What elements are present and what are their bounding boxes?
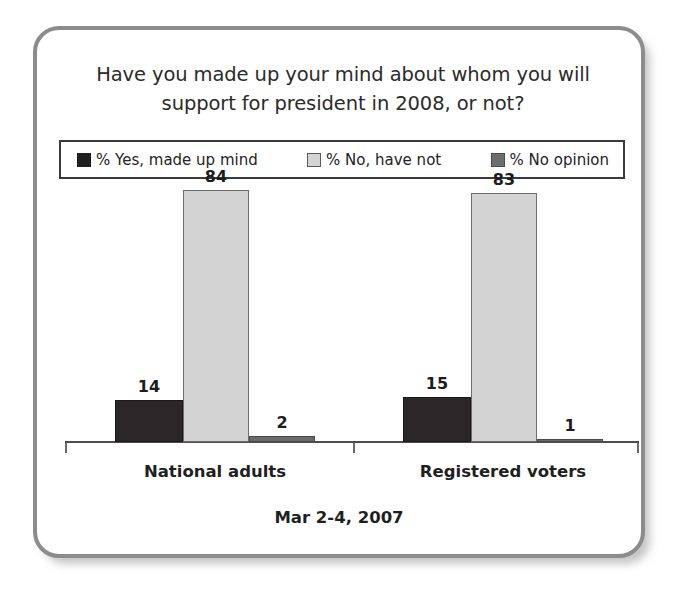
bar-no-registered-voters[interactable] [471, 193, 537, 442]
bar-value-no-opinion-registered-voters: 1 [564, 416, 575, 435]
bar-yes-registered-voters[interactable] [403, 397, 471, 442]
bar-no-opinion-national-adults[interactable] [249, 436, 315, 442]
bar-slot-no-1: 83 [471, 142, 537, 442]
bar-group-registered-voters: 15 83 1 [403, 142, 603, 442]
plot-area: 14 84 2 15 83 1 [37, 30, 641, 554]
chart-date-footer: Mar 2-4, 2007 [37, 508, 641, 527]
bar-slot-yes-0: 14 [115, 142, 183, 442]
bar-value-yes-registered-voters: 15 [426, 374, 448, 393]
bar-group-national-adults: 14 84 2 [115, 142, 315, 442]
bar-value-no-opinion-national-adults: 2 [276, 413, 287, 432]
axis-tick-left [65, 443, 67, 453]
axis-tick-middle [353, 443, 355, 453]
bar-slot-no-opinion-1: 1 [537, 142, 603, 442]
bar-yes-national-adults[interactable] [115, 400, 183, 442]
bar-slot-no-0: 84 [183, 142, 249, 442]
bar-slot-no-opinion-0: 2 [249, 142, 315, 442]
bar-no-opinion-registered-voters[interactable] [537, 439, 603, 442]
category-label-national-adults: National adults [115, 462, 315, 481]
bar-value-yes-national-adults: 14 [138, 377, 160, 396]
bar-no-national-adults[interactable] [183, 190, 249, 442]
bar-slot-yes-1: 15 [403, 142, 471, 442]
axis-tick-right [637, 443, 639, 453]
bar-value-no-national-adults: 84 [205, 167, 227, 186]
category-label-registered-voters: Registered voters [403, 462, 603, 481]
chart-card: Have you made up your mind about whom yo… [33, 26, 645, 558]
bar-value-no-registered-voters: 83 [493, 170, 515, 189]
